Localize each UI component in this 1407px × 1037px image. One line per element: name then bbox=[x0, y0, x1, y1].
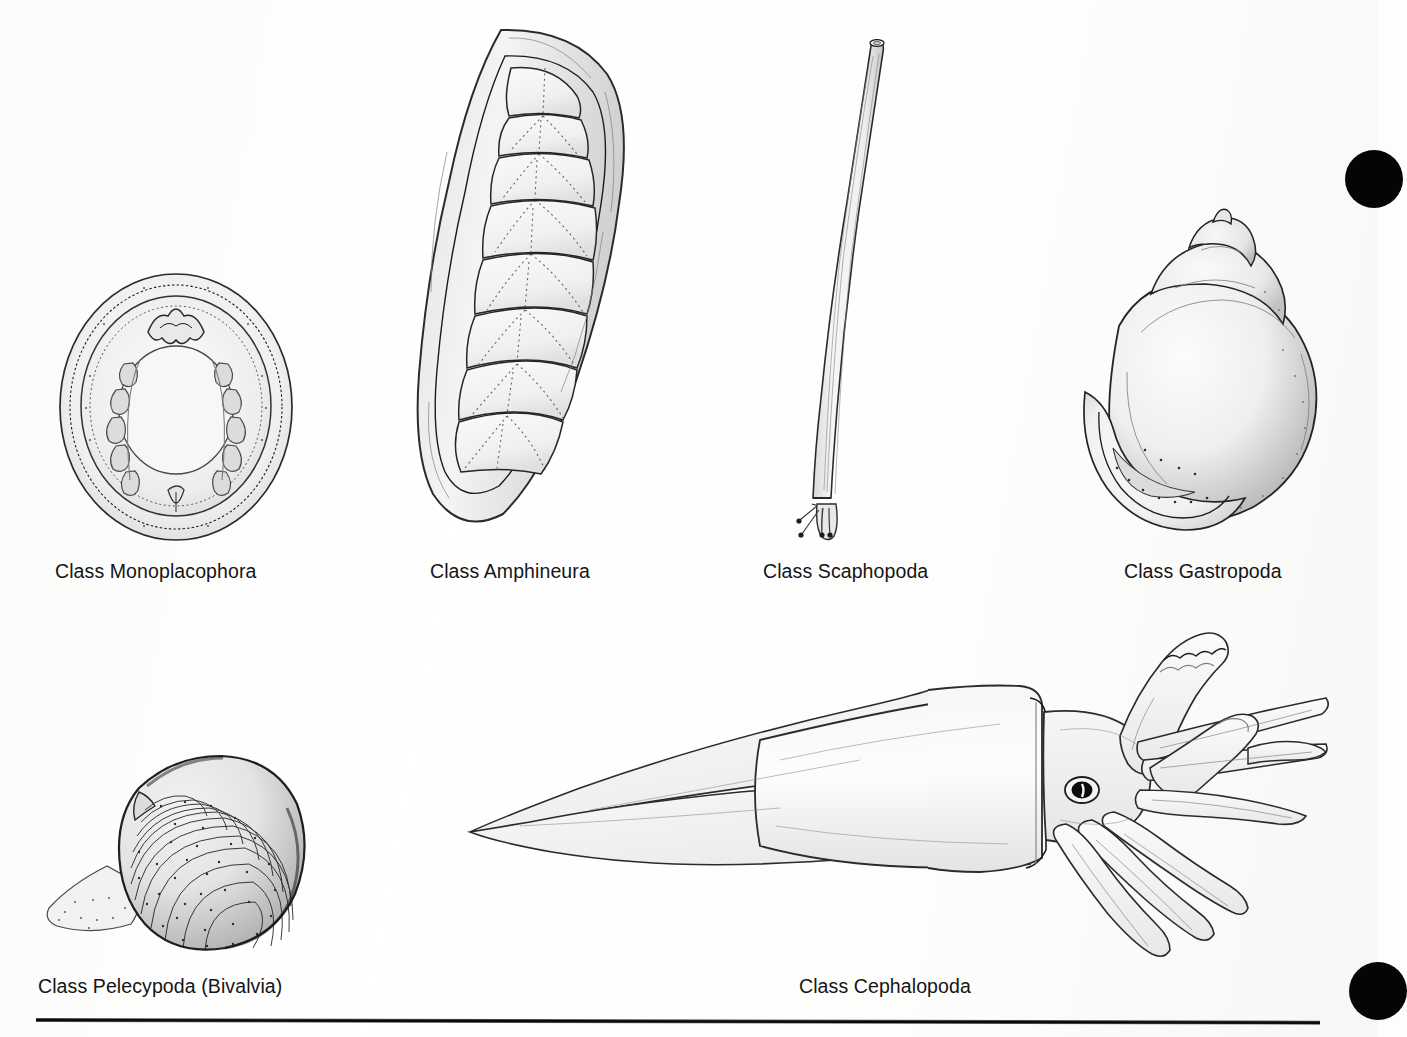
figure-monoplacophora bbox=[52, 268, 300, 546]
label-cephalopoda: Class Cephalopoda bbox=[799, 975, 971, 998]
label-pelecypoda: Class Pelecypoda (Bivalvia) bbox=[38, 975, 282, 998]
figure-cephalopoda bbox=[460, 620, 1330, 960]
label-amphineura: Class Amphineura bbox=[430, 560, 590, 583]
figure-amphineura bbox=[405, 22, 645, 538]
label-monoplacophora: Class Monoplacophora bbox=[55, 560, 256, 583]
figure-scaphopoda bbox=[795, 30, 905, 540]
figure-pelecypoda bbox=[35, 748, 320, 963]
registration-mark-bottom bbox=[1349, 962, 1407, 1020]
label-scaphopoda: Class Scaphopoda bbox=[763, 560, 928, 583]
figure-gastropoda bbox=[1055, 196, 1335, 546]
label-gastropoda: Class Gastropoda bbox=[1124, 560, 1282, 583]
registration-mark-top bbox=[1345, 150, 1403, 208]
